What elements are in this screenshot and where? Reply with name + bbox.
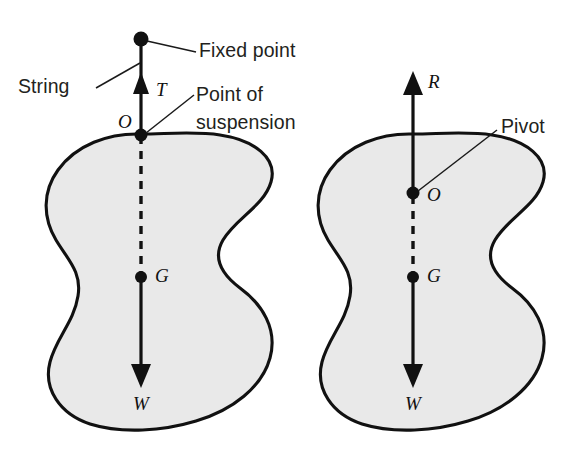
pivot-point-symbol-label: O bbox=[427, 184, 441, 205]
reaction-arrowhead bbox=[403, 71, 423, 95]
suspension-point-dot bbox=[135, 129, 148, 142]
weight-symbol-label-right: W bbox=[405, 393, 423, 414]
tension-symbol-label: T bbox=[156, 79, 168, 100]
reaction-symbol-label: R bbox=[427, 71, 440, 92]
centre-of-gravity-dot-right bbox=[407, 271, 419, 283]
string-label: String bbox=[18, 75, 70, 97]
weight-symbol-label-left: W bbox=[133, 393, 151, 414]
point-of-suspension-label-line2: suspension bbox=[196, 111, 296, 133]
pivoted-body-diagram: Pivot R O G W bbox=[318, 71, 545, 430]
string-leader-line bbox=[96, 63, 140, 88]
figure-canvas: Fixed point String Point of suspension T… bbox=[0, 0, 581, 450]
physics-figure: Fixed point String Point of suspension T… bbox=[0, 0, 581, 450]
suspension-point-symbol-label: O bbox=[118, 111, 132, 132]
suspended-body-diagram: Fixed point String Point of suspension T… bbox=[18, 32, 296, 431]
point-of-suspension-label-line1: Point of bbox=[196, 83, 263, 105]
tension-arrowhead bbox=[133, 72, 149, 94]
point-of-suspension-leader-line bbox=[146, 95, 194, 133]
fixed-point-dot bbox=[134, 32, 149, 47]
centre-of-gravity-symbol-label-left: G bbox=[155, 265, 169, 286]
centre-of-gravity-symbol-label-right: G bbox=[427, 265, 441, 286]
centre-of-gravity-dot-left bbox=[135, 271, 147, 283]
pivot-label: Pivot bbox=[501, 115, 545, 137]
fixed-point-leader-line bbox=[147, 41, 196, 52]
fixed-point-label: Fixed point bbox=[199, 39, 296, 61]
pivot-point-dot bbox=[407, 187, 420, 200]
